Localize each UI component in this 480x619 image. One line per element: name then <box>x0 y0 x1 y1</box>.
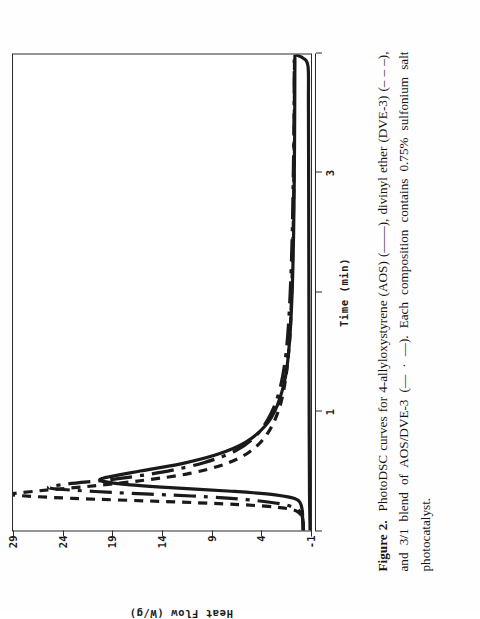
series-line <box>295 54 310 530</box>
x-tick-mark <box>316 530 322 531</box>
y-tick-label: 19 <box>106 535 118 548</box>
series-line <box>48 54 303 530</box>
plot-block: -14914192429 Heat Flow (W/g) 13 Time (mi… <box>6 31 356 591</box>
x-axis-line: 13 <box>315 53 316 531</box>
y-tick-label: 29 <box>7 535 19 548</box>
figure-caption: Figure 2.PhotoDSC curves for 4-allyloxys… <box>372 51 436 571</box>
y-axis-title: Heat Flow (W/g) <box>129 607 233 619</box>
figure-number: Figure 2. <box>375 520 390 571</box>
series-group <box>13 54 311 530</box>
x-tick-mark <box>316 411 322 412</box>
x-axis-title: Time (min) <box>338 53 350 531</box>
y-tick-label: 4 <box>255 535 267 541</box>
x-tick-mark <box>316 291 322 292</box>
x-tick-mark <box>316 52 322 53</box>
y-tick-label: -1 <box>305 535 317 548</box>
series-line <box>13 54 304 530</box>
figure-caption-text: PhotoDSC curves for 4-allyloxystyrene (A… <box>375 51 433 571</box>
plot-frame: -14914192429 <box>12 53 312 531</box>
x-tick-label: 3 <box>324 169 336 175</box>
x-tick-mark <box>316 172 322 173</box>
plot-canvas <box>13 54 311 530</box>
x-tick-label: 1 <box>324 408 336 414</box>
y-tick-label: 14 <box>156 535 168 548</box>
y-tick-label: 24 <box>57 535 69 548</box>
series-line <box>100 54 303 530</box>
y-tick-label: 9 <box>206 535 218 541</box>
